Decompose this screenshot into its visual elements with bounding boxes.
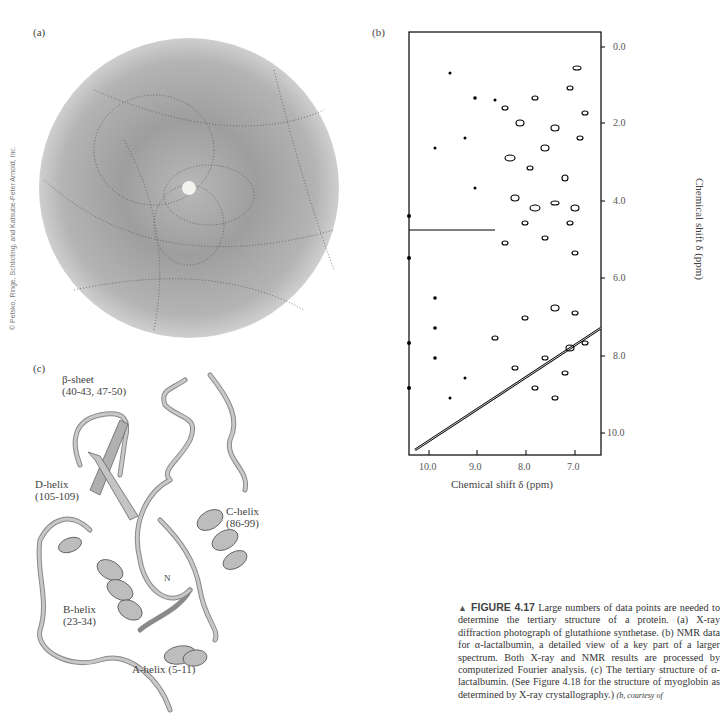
label-a-helix: A-helix (5-11) [132,663,195,675]
y-tick-2: 2.0 [613,117,626,128]
caption-marker-icon: ▲ [458,603,468,613]
caption-text: Large numbers of data points are needed … [458,602,720,700]
y-tick-8: 8.0 [613,350,626,361]
x-tick-10: 10.0 [419,461,437,472]
y-tick-4: 4.0 [613,195,626,206]
panel-b-label: (b) [372,26,385,38]
x-tick-8: 8.0 [518,461,531,472]
caption-credit: (b, courtesy of [617,691,663,700]
nmr-spectrum-plot [405,28,605,460]
y-axis-title: Chemical shift δ (ppm) [694,178,706,280]
y-tick-0: 0.0 [613,41,626,52]
label-d-helix: D-helix (105-109) [35,478,79,502]
label-b-helix: B-helix (23-34) [63,603,96,627]
y-tick-6: 6.0 [613,272,626,283]
x-tick-7: 7.0 [567,461,580,472]
x-tick-9: 9.0 [469,461,482,472]
y-tick-10: 10.0 [607,427,625,438]
label-c-helix: C-helix (86-99) [226,505,259,529]
x-axis-title: Chemical shift δ (ppm) [451,478,553,490]
figure-number: FIGURE 4.17 [471,601,535,613]
label-n-terminus: N [164,572,171,584]
xray-diffraction-image [34,30,344,340]
figure-caption: ▲ FIGURE 4.17 Large numbers of data poin… [458,601,720,702]
protein-ribbon-diagram [30,360,280,715]
photo-credit: © Petsko, Ringe, Schlicting, and Katsube… [9,146,16,330]
label-beta-sheet: β-sheet (40-43, 47-50) [62,373,126,397]
